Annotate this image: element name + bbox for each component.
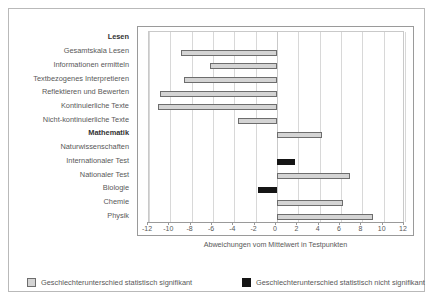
bar-row — [149, 46, 403, 60]
bar-biologie — [258, 187, 277, 193]
category-label-internationaler-test: Internationaler Test — [66, 156, 129, 165]
legend-label-nonsig: Geschlechterunterschied statistisch nich… — [256, 278, 425, 287]
bar-row — [149, 142, 403, 156]
x-tick-label-6: 6 — [337, 225, 341, 232]
x-tick-label--4: -4 — [229, 225, 235, 232]
category-label-kontinuierliche-texte: Kontinuierliche Texte — [61, 101, 129, 110]
category-label-biologie: Biologie — [103, 183, 129, 192]
gridline-12 — [405, 32, 406, 222]
bar-row — [149, 73, 403, 87]
x-tick-label-0: 0 — [273, 225, 277, 232]
category-axis-labels: LesenGesamtskala LesenInformationen ermi… — [9, 30, 133, 222]
bar-row — [149, 87, 403, 101]
x-tick-label-8: 8 — [358, 225, 362, 232]
bar-series — [149, 32, 403, 222]
legend-swatch-nonsig — [242, 278, 251, 287]
x-axis: -12-10-8-6-4-2024681012 — [147, 222, 403, 234]
bar-row — [149, 114, 403, 128]
x-tick-label--12: -12 — [142, 225, 152, 232]
x-axis-title: Abweichungen vom Mittelwert in Testpunkt… — [137, 240, 414, 249]
x-tick-label-2: 2 — [294, 225, 298, 232]
chart-plot-frame — [137, 26, 414, 236]
plot-area — [148, 31, 404, 223]
category-label-mathematik: Mathematik — [88, 128, 129, 137]
bar-physik — [277, 214, 373, 220]
bar-row — [149, 128, 403, 142]
bar-row — [149, 32, 403, 46]
category-label-informationen-ermitteln: Informationen ermitteln — [53, 60, 129, 69]
category-label-chemie: Chemie — [104, 197, 129, 206]
legend-item-sig[interactable]: Geschlechterunterschied statistisch sign… — [27, 278, 192, 287]
bar-row — [149, 59, 403, 73]
bar-row — [149, 101, 403, 115]
x-axis-line — [147, 222, 403, 223]
category-label-naturwissenschaften: Naturwissenschaften — [60, 142, 129, 151]
category-label-nicht-kontinuierliche-texte: Nicht-kontinuierliche Texte — [43, 115, 129, 124]
legend-item-nonsig[interactable]: Geschlechterunterschied statistisch nich… — [242, 278, 425, 287]
category-label-gesamtskala-lesen: Gesamtskala Lesen — [64, 46, 129, 55]
category-label-textbezogenes-interpretieren: Textbezogenes Interpretieren — [33, 74, 129, 83]
bar-internationaler-test — [277, 159, 295, 165]
bar-textbezogenes-interpretieren — [184, 77, 277, 83]
bar-row — [149, 169, 403, 183]
bar-kontinuierliche-texte — [158, 104, 277, 110]
legend-swatch-sig — [27, 278, 36, 287]
category-label-reflektieren-und-bewerten: Reflektieren und Bewerten — [42, 87, 129, 96]
bar-chemie — [277, 200, 343, 206]
x-tick-label--2: -2 — [251, 225, 257, 232]
x-tick-label--10: -10 — [163, 225, 173, 232]
figure-frame: LesenGesamtskala LesenInformationen ermi… — [8, 8, 425, 292]
bar-nicht-kontinuierliche-texte — [238, 118, 277, 124]
bar-reflektieren-und-bewerten — [160, 91, 277, 97]
chart-legend: Geschlechterunterschied statistisch sign… — [17, 278, 434, 298]
x-tick-label-12: 12 — [399, 225, 407, 232]
bar-row — [149, 183, 403, 197]
bar-informationen-ermitteln — [210, 63, 277, 69]
category-label-physik: Physik — [107, 211, 129, 220]
bar-row — [149, 197, 403, 211]
legend-label-sig: Geschlechterunterschied statistisch sign… — [41, 278, 192, 287]
category-label-lesen: Lesen — [108, 32, 129, 41]
category-label-nationaler-test: Nationaler Test — [80, 170, 129, 179]
x-tick-label--6: -6 — [208, 225, 214, 232]
x-tick-label--8: -8 — [187, 225, 193, 232]
x-tick-label-4: 4 — [316, 225, 320, 232]
bar-row — [149, 155, 403, 169]
bar-gesamtskala-lesen — [181, 50, 277, 56]
bar-mathematik — [277, 132, 322, 138]
x-tick-label-10: 10 — [378, 225, 386, 232]
bar-nationaler-test — [277, 173, 350, 179]
